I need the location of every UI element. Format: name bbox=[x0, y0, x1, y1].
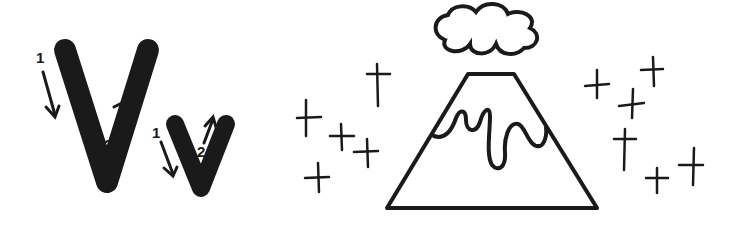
down-arrow-icon bbox=[43, 72, 59, 117]
sparkle-icon bbox=[585, 70, 609, 98]
sparkles-left bbox=[297, 64, 390, 192]
down-arrow-icon bbox=[161, 142, 177, 176]
stroke-number-2-lower: 2 bbox=[197, 143, 205, 160]
worksheet-canvas: 1 2 1 2 bbox=[0, 0, 731, 225]
stroke-number-1-upper: 1 bbox=[36, 49, 44, 66]
sparkles-right bbox=[585, 57, 703, 193]
sparkle-icon bbox=[641, 57, 663, 86]
uppercase-v-letter bbox=[65, 50, 148, 182]
lava-icon bbox=[434, 110, 546, 169]
sparkle-icon bbox=[354, 139, 378, 167]
sparkle-icon bbox=[614, 129, 636, 170]
stroke-number-1-lower: 1 bbox=[152, 124, 160, 141]
volcano-icon bbox=[387, 74, 597, 208]
sparkle-icon bbox=[367, 64, 390, 106]
smoke-cloud-icon bbox=[436, 4, 538, 54]
sparkle-icon bbox=[297, 100, 321, 136]
sparkle-icon bbox=[330, 124, 354, 150]
sparkle-icon bbox=[679, 148, 703, 185]
sparkle-icon bbox=[305, 163, 329, 192]
sparkle-icon bbox=[646, 168, 668, 193]
sparkle-icon bbox=[619, 89, 644, 118]
